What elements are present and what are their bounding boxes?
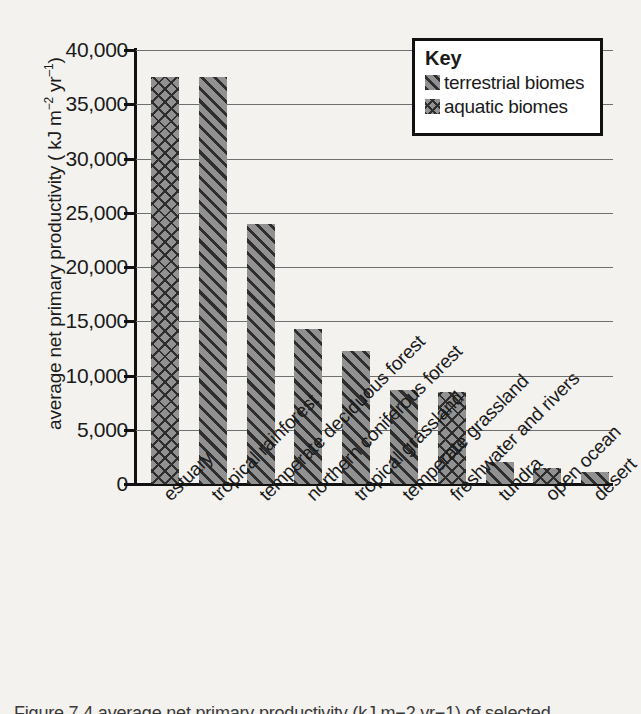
y-axis-tickmark	[124, 429, 136, 432]
y-axis-tick-label: 5,000	[77, 418, 128, 442]
x-axis-category-labels: estuarytropical rainforesttemperate deci…	[0, 484, 634, 694]
y-axis-tick-label: 15,000	[66, 309, 128, 333]
legend-title: Key	[425, 47, 592, 70]
y-axis-tick-label: 40,000	[66, 38, 128, 62]
y-axis-tick-label: 10,000	[66, 364, 128, 388]
y-axis-tick-label: 30,000	[66, 147, 128, 171]
y-axis-tickmark	[124, 103, 136, 106]
y-axis-tick-labels: 40,00035,00030,00025,00020,00015,00010,0…	[36, 0, 128, 500]
y-axis-tick-label: 25,000	[66, 201, 128, 225]
legend-item-aquatic: aquatic biomes	[425, 95, 592, 119]
y-axis-tickmark	[124, 49, 136, 52]
legend-label-terrestrial: terrestrial biomes	[444, 71, 584, 95]
y-axis-tickmark	[124, 212, 136, 215]
y-axis-tickmark	[124, 266, 136, 269]
figure-caption: Figure 7.4 average net primary productiv…	[0, 703, 634, 714]
y-axis-tickmark	[124, 320, 136, 323]
y-axis-tick-label: 35,000	[66, 92, 128, 116]
y-axis-tickmark	[124, 375, 136, 378]
bar	[199, 77, 227, 484]
legend-box: Key terrestrial biomes aquatic biomes	[412, 38, 603, 136]
legend-swatch-terrestrial-icon	[425, 75, 440, 90]
legend-label-aquatic: aquatic biomes	[444, 95, 568, 119]
bar	[151, 77, 179, 484]
legend-item-terrestrial: terrestrial biomes	[425, 71, 592, 95]
y-axis-tick-label: 20,000	[66, 255, 128, 279]
legend-swatch-aquatic-icon	[425, 99, 440, 114]
y-axis-tickmark	[124, 158, 136, 161]
